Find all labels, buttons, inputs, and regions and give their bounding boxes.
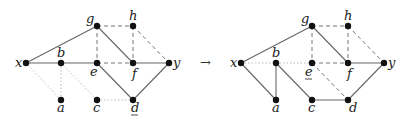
node-label-x: x — [230, 55, 238, 70]
node-label-e: e — [305, 64, 313, 79]
graph-after: xbghefyacd — [230, 8, 396, 115]
node-label-d: d — [131, 100, 139, 115]
node-label-d: d — [349, 100, 357, 115]
edge-h-y-dashed — [348, 26, 384, 63]
node-label-f: f — [346, 66, 354, 81]
node-label-c: c — [93, 100, 101, 115]
node-label-g: g — [301, 11, 309, 26]
node-label-y: y — [172, 55, 181, 70]
edge-g-f-solid — [312, 26, 348, 63]
node-label-h: h — [129, 8, 137, 23]
edge-x-a-dotted — [26, 63, 61, 100]
node-y — [166, 60, 172, 66]
node-b — [58, 60, 64, 66]
graph-before: xbghefyacd — [15, 8, 181, 115]
edge-g-f-solid — [97, 26, 133, 63]
edge-d-y-solid — [348, 63, 384, 100]
edge-h-y-dashed — [133, 26, 169, 63]
edge-d-y-solid — [133, 63, 169, 100]
node-label-f: f — [131, 66, 139, 81]
node-g — [309, 23, 315, 29]
node-label-e: e — [90, 64, 98, 79]
node-label-b: b — [57, 45, 65, 60]
node-y — [381, 60, 387, 66]
node-label-a: a — [272, 100, 280, 115]
node-label-x: x — [15, 55, 23, 70]
edge-e-d-solid — [97, 63, 133, 100]
edge-x-a-solid — [241, 63, 276, 100]
node-label-h: h — [344, 8, 352, 23]
edge-e-d-dashed — [312, 63, 348, 100]
node-h — [130, 23, 136, 29]
node-b — [273, 60, 279, 66]
node-x — [238, 60, 244, 66]
node-g — [94, 23, 100, 29]
node-label-g: g — [86, 11, 94, 26]
node-x — [23, 60, 29, 66]
node-label-a: a — [57, 100, 65, 115]
node-label-b: b — [272, 45, 280, 60]
node-label-y: y — [387, 55, 396, 70]
node-label-c: c — [308, 100, 316, 115]
node-h — [345, 23, 351, 29]
transform-arrow: → — [200, 55, 211, 70]
graph-transformation-diagram: xbghefyacd → xbghefyacd — [0, 0, 411, 117]
